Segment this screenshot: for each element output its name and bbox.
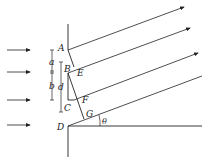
- diagram-canvas: A B C D E F G a b d θ: [0, 0, 211, 161]
- label-theta: θ: [102, 117, 107, 126]
- label-d: d: [58, 82, 64, 92]
- label-F: F: [81, 95, 89, 105]
- label-G: G: [86, 109, 93, 119]
- label-C: C: [64, 103, 71, 113]
- label-B: B: [63, 64, 71, 74]
- theta-arc: [99, 115, 100, 126]
- labels: A B C D E F G a b d θ: [49, 43, 107, 132]
- label-E: E: [76, 68, 84, 78]
- diffracted-ray-arrow-icon: [68, 28, 190, 73]
- diffracted-ray-arrow-icon: [74, 53, 198, 100]
- diffracted-ray-arrow-icon: [68, 7, 184, 50]
- label-D: D: [56, 122, 64, 132]
- label-a: a: [49, 57, 54, 67]
- incident-rays: [7, 50, 30, 125]
- label-A: A: [57, 43, 65, 53]
- label-b: b: [49, 81, 55, 91]
- diagram: A B C D E F G a b d θ: [0, 0, 211, 161]
- grating: [68, 24, 202, 157]
